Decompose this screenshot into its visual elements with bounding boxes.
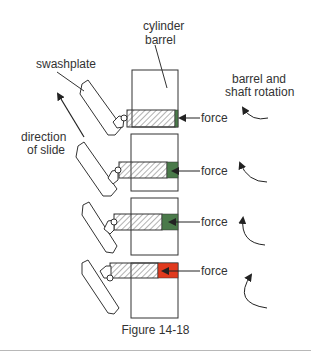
rotation-arrow-3 [243,218,265,245]
stage-1 [80,70,178,135]
fluid-chamber-2 [167,162,178,178]
fluid-chamber-1 [175,110,178,127]
swashplate-label: swashplate [36,57,96,71]
figure-caption: Figure 14-18 [0,323,311,337]
ball-joint-1 [121,115,127,121]
ball-joint-3 [111,219,117,225]
cylinder-barrel-leader [155,45,167,88]
ball-joint-4 [107,275,113,281]
force-label-2: force [201,164,228,178]
force-label-3: force [201,215,228,229]
stage-2 [76,134,178,196]
piston-1 [127,110,175,127]
direction-label-line2: of slide [27,143,65,157]
cylinder-barrel-label-line2: barrel [145,33,176,47]
rotation-arrow-1 [243,108,268,119]
ball-joint-2 [115,167,121,173]
rotation-label-line2: shaft rotation [225,85,294,99]
force-label-4: force [201,264,228,278]
stage-3 [82,198,178,255]
cylinder-barrel-label-line1: cylinder [143,19,184,33]
diagram-canvas: cylinder barrel swashplate direction of … [0,0,311,355]
rotation-label-line1: barrel and [232,72,286,86]
stage-4 [82,260,178,318]
piston-2 [119,162,167,178]
swashplate-2 [76,142,117,196]
piston-4 [110,263,158,278]
rotation-arrow-2 [240,163,267,182]
direction-label-line1: direction [21,130,66,144]
swashplate-leader [57,72,84,91]
piston-pump-diagram [0,0,311,355]
rotation-arrow-4 [244,275,267,308]
piston-3 [114,214,162,230]
bottom-divider [0,350,311,351]
force-label-1: force [201,111,228,125]
